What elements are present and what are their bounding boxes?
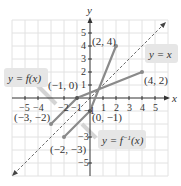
- svg-text:−3: −3: [78, 131, 89, 142]
- svg-text:y = f−1(x): y = f−1(x): [101, 134, 144, 147]
- x-axis-label: x: [171, 92, 177, 104]
- svg-text:4: 4: [81, 40, 86, 51]
- svg-text:−2: −2: [58, 102, 69, 113]
- svg-text:5: 5: [153, 102, 158, 113]
- svg-text:1: 1: [81, 79, 86, 90]
- svg-text:5: 5: [81, 27, 86, 38]
- point-label-0-neg1: (0, −1): [92, 111, 122, 124]
- y-axis-label: y: [86, 4, 92, 16]
- svg-text:−1: −1: [71, 102, 82, 113]
- label-box-f: y = f(x): [4, 68, 48, 87]
- label-box-f-inverse: y = f−1(x): [98, 130, 146, 149]
- f-inverse-point-start: [62, 135, 66, 139]
- svg-text:3: 3: [127, 102, 132, 113]
- svg-text:4: 4: [140, 102, 145, 113]
- svg-text:3: 3: [81, 53, 86, 64]
- point-label-4-2: (4, 2): [144, 74, 168, 87]
- point-label-neg2-neg3: (−2, −3): [50, 143, 87, 156]
- point-label-2-4: (2, 4): [92, 35, 116, 48]
- x-axis-arrow-icon: [164, 96, 170, 101]
- coordinate-graph: y x −5 −4 −2 −1 1 2 3 4 5 5 4 3 2 1 −1 −…: [0, 0, 181, 186]
- label-box-identity: y = x: [145, 44, 178, 63]
- svg-text:2: 2: [81, 66, 86, 77]
- svg-text:y = f(x): y = f(x): [7, 72, 41, 85]
- f-point-mid: [75, 96, 79, 100]
- point-label-neg1-0: (−1, 0): [48, 79, 78, 92]
- svg-text:−5: −5: [78, 157, 89, 168]
- point-label-neg3-neg2: (−3, −2): [14, 111, 51, 124]
- svg-text:y = x: y = x: [148, 48, 172, 60]
